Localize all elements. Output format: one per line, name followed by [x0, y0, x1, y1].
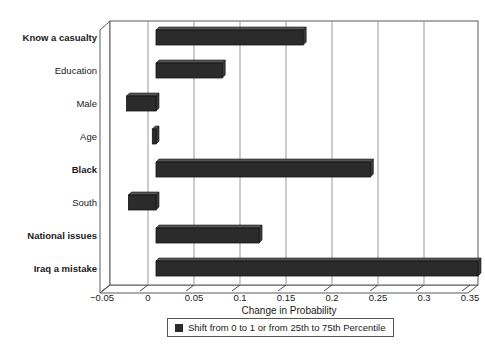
legend-swatch-icon — [175, 324, 183, 332]
bar-know-a-casualty — [156, 30, 303, 45]
bar-male — [127, 96, 156, 111]
bar-top-face — [156, 159, 373, 162]
x-tick-label-0: 0 — [145, 293, 150, 303]
category-label-know-a-casualty: Know a casualty — [23, 33, 97, 43]
x-axis-title: Change in Probability — [241, 306, 336, 316]
bar-side-face — [156, 192, 159, 210]
category-label-black: Black — [72, 165, 97, 175]
x-tick-label-0neg2: 0.2 — [325, 293, 338, 303]
bar-top-face — [156, 258, 481, 261]
x-tick-label-0neg15: 0.15 — [277, 293, 296, 303]
bar-chart-figure: Know a casualtyEducationMaleAgeBlackSout… — [0, 0, 485, 351]
x-tick-label-0neg35: 0.35 — [461, 293, 480, 303]
bar-side-face — [303, 27, 306, 45]
x-tick-label-0neg25: 0.25 — [369, 293, 388, 303]
bar-national-issues — [156, 228, 259, 243]
bar-south — [128, 195, 156, 210]
frame-left-panel — [100, 21, 110, 293]
bar-side-face — [156, 126, 159, 144]
bar-top-face — [127, 93, 159, 96]
category-label-national-issues: National issues — [27, 231, 97, 241]
bar-education — [156, 63, 222, 78]
bar-age — [152, 129, 156, 144]
bar-iraq-a-mistake — [156, 261, 478, 276]
x-tick-label-0neg05: 0.05 — [185, 293, 204, 303]
bar-top-face — [156, 27, 306, 30]
x-tick-label-neg0-05: −0.05 — [90, 293, 114, 303]
bar-side-face — [370, 159, 373, 177]
bar-top-face — [156, 225, 262, 228]
bar-side-face — [259, 225, 262, 243]
bar-black — [156, 162, 370, 177]
legend-entry-label: Shift from 0 to 1 or from 25th to 75th P… — [188, 323, 386, 333]
bar-side-face — [222, 60, 225, 78]
category-label-south: South — [72, 198, 97, 208]
category-label-age: Age — [80, 132, 97, 142]
x-tick-label-0neg3: 0.3 — [417, 293, 430, 303]
chart-legend: Shift from 0 to 1 or from 25th to 75th P… — [167, 318, 394, 337]
bar-top-face — [156, 60, 225, 63]
bar-side-face — [478, 258, 481, 276]
category-label-education: Education — [55, 66, 97, 76]
bar-top-face — [128, 192, 159, 195]
category-label-iraq-a-mistake: Iraq a mistake — [34, 264, 97, 274]
x-tick-label-0neg1: 0.1 — [233, 293, 246, 303]
bar-side-face — [156, 93, 159, 111]
category-label-male: Male — [76, 99, 97, 109]
